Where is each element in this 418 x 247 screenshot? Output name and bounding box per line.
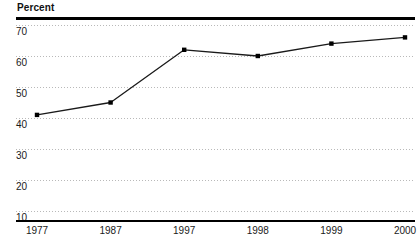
percent-line-chart: Percent 70605040302010 19771987199719981… — [0, 0, 418, 247]
data-point-1997 — [182, 48, 186, 52]
data-point-1987 — [108, 100, 112, 104]
x-tick-label-1997: 1997 — [173, 225, 195, 237]
series-line-percent — [37, 37, 405, 115]
data-point-1998 — [256, 54, 260, 58]
series-markers-group — [35, 35, 407, 117]
data-point-1977 — [35, 113, 39, 117]
data-point-2000 — [403, 35, 407, 39]
data-series-layer — [16, 20, 415, 220]
plot-area: 70605040302010 — [16, 20, 415, 220]
y-axis-title: Percent — [17, 2, 54, 14]
x-tick-label-1987: 1987 — [99, 225, 121, 237]
x-tick-label-1977: 1977 — [26, 225, 48, 237]
x-tick-label-1998: 1998 — [247, 225, 269, 237]
x-tick-label-1999: 1999 — [320, 225, 342, 237]
data-point-1999 — [329, 41, 333, 45]
x-tick-label-2000: 2000 — [394, 225, 416, 237]
x-axis-tick-labels: 197719871997199819992000 — [16, 225, 415, 241]
bottom-rule-divider — [16, 220, 415, 222]
